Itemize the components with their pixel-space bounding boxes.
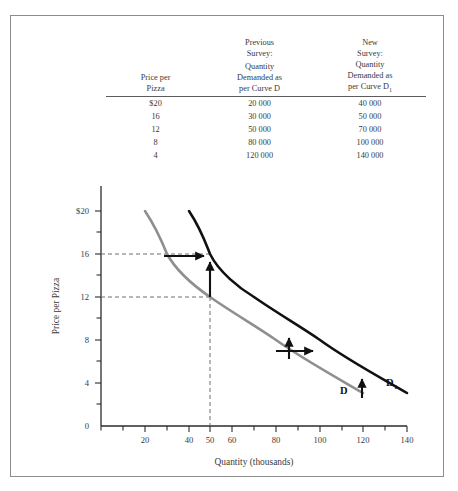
curve-d xyxy=(145,211,363,393)
x-tick-label-60: 60 xyxy=(228,435,237,445)
x-axis-title: Quantity (thousands) xyxy=(215,457,294,468)
y-tick-label-20: $20 xyxy=(76,206,89,216)
curve-label-d1-subscript: 1 xyxy=(394,383,398,391)
x-tick-label-140: 140 xyxy=(401,435,414,445)
figure-frame: Previous Survey: New Survey: Price per P… xyxy=(10,15,444,477)
x-tick-label-50: 50 xyxy=(206,435,215,445)
x-tick-label-100: 100 xyxy=(314,435,327,445)
y-tick-label-16: 16 xyxy=(80,249,89,259)
x-tick-label-40: 40 xyxy=(185,435,194,445)
y-tick-label-4: 4 xyxy=(85,378,90,388)
x-tick-label-80: 80 xyxy=(272,435,281,445)
x-axis-tick-labels: 20 40 50 60 80 100 120 140 xyxy=(141,435,414,445)
y-tick-label-12: 12 xyxy=(80,292,89,302)
x-axis-ticks xyxy=(101,426,407,432)
chart-svg: $20 16 12 8 4 0 xyxy=(11,16,445,478)
demand-curve-chart: $20 16 12 8 4 0 xyxy=(11,16,445,478)
y-axis-tick-labels: $20 16 12 8 4 0 xyxy=(76,206,90,431)
y-axis-title: Price per Pizza xyxy=(51,277,61,334)
guide-lines xyxy=(101,254,210,426)
y-tick-label-8: 8 xyxy=(85,335,89,345)
curve-label-d1: D xyxy=(386,377,394,388)
x-tick-label-20: 20 xyxy=(141,435,150,445)
y-axis-ticks xyxy=(95,211,101,404)
curve-label-d: D xyxy=(340,385,348,396)
curve-d1 xyxy=(189,211,407,393)
x-tick-label-120: 120 xyxy=(357,435,370,445)
y-tick-label-0: 0 xyxy=(85,421,89,431)
curve-labels: D D 1 xyxy=(340,377,398,396)
